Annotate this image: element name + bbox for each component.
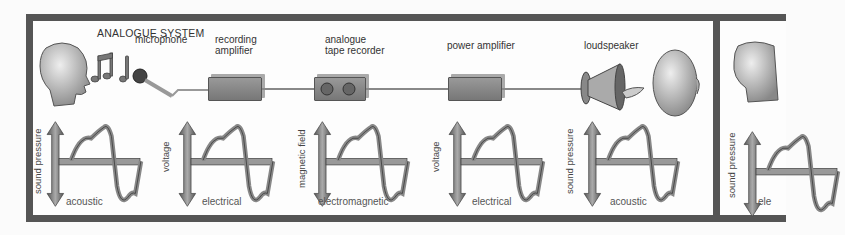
axis-label-2: voltage <box>160 141 171 172</box>
listener-head-icon <box>650 48 702 118</box>
next-panel-waveform <box>735 128 845 220</box>
tape-recorder-label-1: analogue <box>325 34 366 45</box>
panel-divider <box>713 14 720 222</box>
music-notes-icon <box>90 52 132 84</box>
recording-amplifier-label-1: recording <box>215 34 257 45</box>
domain-label-2: electrical <box>202 196 241 207</box>
power-amplifier-label: power amplifier <box>447 40 515 51</box>
cable <box>262 88 314 90</box>
next-panel-axis-label: sound pressure <box>726 133 737 198</box>
loudspeaker-label: loudspeaker <box>584 40 638 51</box>
axis-label-3: magnetic field <box>296 129 307 188</box>
cable <box>502 88 582 90</box>
next-panel-domain-label: ele <box>758 196 771 207</box>
tape-reels-icon <box>318 81 362 97</box>
domain-label-3: electromagnetic <box>318 196 389 207</box>
next-panel-head-icon <box>728 40 778 104</box>
axis-label-4: voltage <box>430 141 441 172</box>
microphone-label: microphone <box>135 34 187 45</box>
recording-amplifier-label-2: amplifier <box>215 45 253 56</box>
loudspeaker-icon <box>580 62 650 112</box>
axis-label-1: sound pressure <box>32 129 43 194</box>
domain-label-1: acoustic <box>66 196 103 207</box>
tape-recorder-label-2: tape recorder <box>325 45 384 56</box>
speaker-head-icon <box>36 40 92 110</box>
microphone-icon <box>132 68 212 98</box>
axis-label-5: sound pressure <box>564 129 575 194</box>
recording-amplifier-box <box>208 77 262 101</box>
domain-label-4: electrical <box>472 196 511 207</box>
domain-label-5: acoustic <box>610 196 647 207</box>
power-amplifier-box <box>448 77 502 101</box>
cable <box>366 88 448 90</box>
